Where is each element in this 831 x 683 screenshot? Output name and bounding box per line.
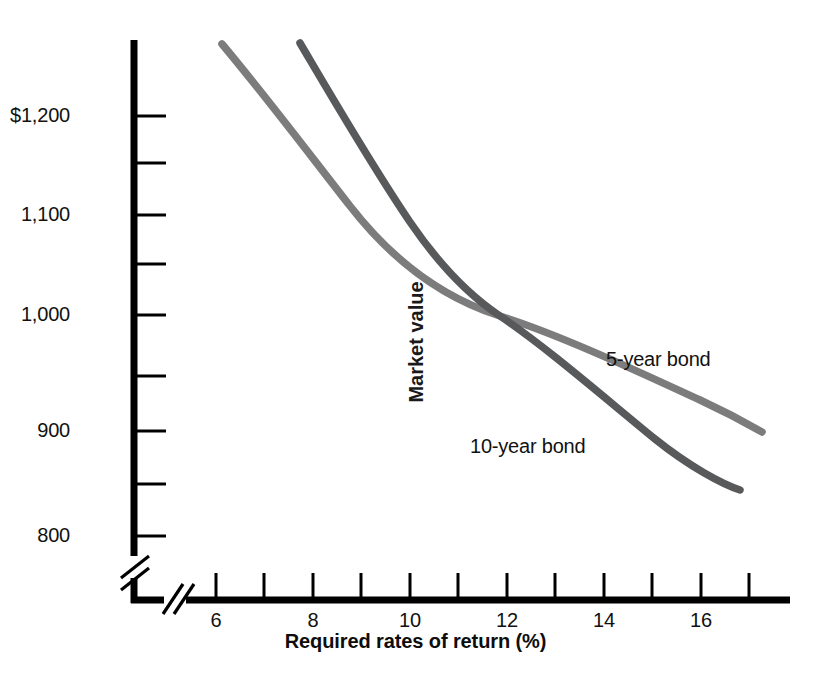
x-tick-label-10: 10	[399, 609, 421, 632]
y-minor-ticks	[137, 163, 166, 484]
series-label-10-year-bond: 10-year bond	[470, 435, 585, 458]
x-tick-label-8: 8	[308, 609, 319, 632]
series-curve-5-year-bond	[222, 44, 762, 432]
y-tick-label-1000: 1,000	[21, 303, 70, 326]
x-tick-label-6: 6	[211, 609, 222, 632]
y-tick-label-800: 800	[37, 524, 70, 547]
y-axis-title-text: Market value	[404, 281, 427, 402]
series-curve-10-year-bond	[300, 43, 740, 490]
x-tick-label-12: 12	[496, 609, 518, 632]
x-axis-title: Required rates of return (%)	[0, 630, 831, 653]
y-major-ticks	[137, 116, 166, 536]
x-tick-label-16: 16	[690, 609, 712, 632]
series-label-5-year-bond: 5-year bond	[606, 348, 711, 371]
y-tick-label-900: 900	[37, 419, 70, 442]
bond-price-yield-chart: $1,200 1,100 1,000 900 800 6 8 10 12 14 …	[0, 0, 831, 683]
y-tick-label-1100: 1,100	[21, 203, 70, 226]
x-tick-label-14: 14	[593, 609, 615, 632]
y-tick-label-1200: $1,200	[10, 104, 70, 127]
